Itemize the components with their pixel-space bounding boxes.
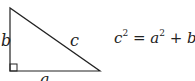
eq-term1-exp: 2 [159,28,165,38]
right-angle-marker [10,64,17,71]
eq-term2-var: b [187,29,195,47]
label-side-c: c [70,31,79,50]
eq-plus: + [170,29,183,47]
eq-term1-var: a [150,29,159,47]
eq-equals: = [133,29,146,47]
right-triangle [10,8,100,71]
eq-lhs-exp: 2 [122,28,128,38]
label-side-a: a [40,70,50,81]
pythagorean-equation: c2 = a2 + b2 [114,28,195,47]
label-side-b: b [1,31,11,50]
